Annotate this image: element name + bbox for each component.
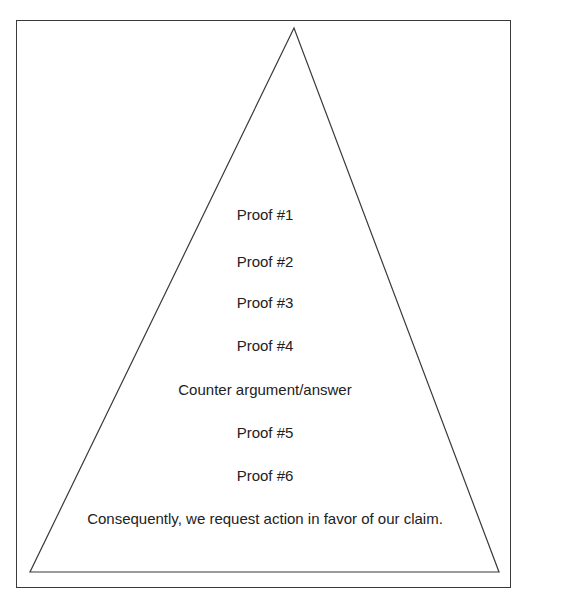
level-proof-1: Proof #1 xyxy=(0,206,530,224)
level-proof-2: Proof #2 xyxy=(0,253,530,271)
level-conclusion: Consequently, we request action in favor… xyxy=(0,510,530,528)
level-proof-5: Proof #5 xyxy=(0,424,530,442)
level-proof-3: Proof #3 xyxy=(0,294,530,312)
level-proof-6: Proof #6 xyxy=(0,467,530,485)
level-proof-4: Proof #4 xyxy=(0,337,530,355)
level-counter-argument: Counter argument/answer xyxy=(0,381,530,399)
